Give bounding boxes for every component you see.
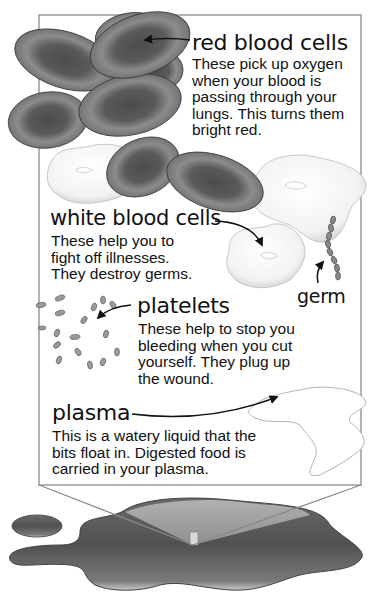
text-line: These help you to — [51, 233, 192, 250]
text-line: lungs. This turns them — [192, 106, 344, 123]
blood-diagram: red blood cells These pick up oxygen whe… — [0, 0, 377, 597]
text-line: carried in your plasma. — [52, 461, 256, 478]
text-line: These pick up oxygen — [192, 56, 344, 73]
plasma-puddle — [10, 498, 363, 590]
text-line: bits float in. Digested food is — [52, 445, 256, 462]
text-line: They destroy germs. — [51, 266, 192, 283]
text-line: These help to stop you — [138, 321, 295, 338]
heading-white-blood-cells: white blood cells — [50, 206, 221, 230]
text-line: bright red. — [192, 122, 344, 139]
description-plasma: This is a watery liquid that the bits fl… — [52, 428, 256, 478]
text-line: fight off illnesses. — [51, 250, 192, 267]
text-line: passing through your — [192, 89, 344, 106]
heading-red-blood-cells: red blood cells — [192, 30, 348, 55]
description-platelets: These help to stop you bleeding when you… — [138, 321, 295, 387]
text-line: bleeding when you cut — [138, 338, 295, 355]
description-white-blood-cells: These help you to fight off illnesses. T… — [51, 233, 192, 283]
label-germ: germ — [297, 285, 346, 307]
text-line: the wound. — [138, 371, 295, 388]
heading-plasma: plasma — [52, 400, 130, 425]
text-line: yourself. They plug up — [138, 354, 295, 371]
heading-platelets: platelets — [137, 293, 230, 318]
description-red-blood-cells: These pick up oxygen when your blood is … — [192, 56, 344, 139]
text-line: This is a watery liquid that the — [52, 428, 256, 445]
text-line: when your blood is — [192, 73, 344, 90]
